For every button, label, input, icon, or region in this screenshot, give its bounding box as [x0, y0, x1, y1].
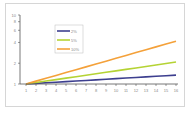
x-tick-label: 3 [45, 88, 48, 93]
x-tick-label: 11 [124, 88, 129, 93]
legend-label: 2% [71, 29, 77, 34]
x-tick-label: 6 [75, 88, 78, 93]
y-tick-label: 6 [14, 28, 17, 33]
y-tick-label: 4 [14, 40, 17, 45]
x-tick-label: 10 [114, 88, 119, 93]
x-tick-label: 15 [164, 88, 169, 93]
y-tick-label: 8 [14, 19, 17, 24]
x-tick-label: 7 [85, 88, 88, 93]
x-tick-label: 16 [174, 88, 179, 93]
x-tick-label: 1 [25, 88, 28, 93]
series-line-10pct [26, 41, 176, 84]
x-tick-label: 2 [35, 88, 38, 93]
series-line-2pct [26, 75, 176, 84]
y-tick-label: 2 [14, 61, 17, 66]
legend-label: 10% [71, 47, 79, 52]
line-chart: 1246810123456789101112131415162%5%10% [0, 0, 196, 113]
x-tick-label: 9 [105, 88, 108, 93]
y-tick-label: 10 [12, 13, 17, 18]
x-tick-label: 13 [144, 88, 149, 93]
x-tick-label: 4 [55, 88, 58, 93]
x-tick-label: 8 [95, 88, 98, 93]
x-tick-label: 12 [134, 88, 139, 93]
x-tick-label: 14 [154, 88, 159, 93]
legend-label: 5% [71, 38, 77, 43]
series-line-5pct [26, 62, 176, 84]
y-tick-label: 1 [14, 82, 17, 87]
x-tick-label: 5 [65, 88, 68, 93]
